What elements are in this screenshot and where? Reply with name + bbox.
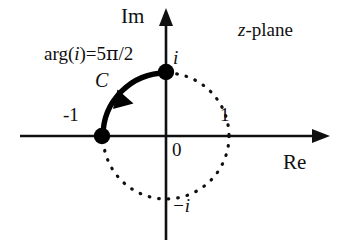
origin-label: 0 [172,140,182,159]
imaginary-axis-arrowhead [159,8,173,26]
z-plane-suffix: -plane [245,19,292,40]
real-axis-arrowhead [312,129,330,143]
point-marker-i [158,64,174,80]
arg-prefix: arg( [44,43,74,64]
point-marker-negative-one [94,128,110,144]
real-axis-label: Re [283,152,306,173]
z-plane-label: z-plane [238,20,293,39]
arg-over-two: /2 [119,43,134,64]
arg-suffix: )=5 [80,43,107,64]
arg-pi-symbol: π [106,42,119,64]
point-label-i: i [173,48,178,67]
imaginary-axis-label: Im [121,6,144,27]
arg-annotation: arg(i)=5π/2 [44,44,133,63]
point-label-negative-i: −i [172,196,190,215]
contour-arc-c [103,73,166,136]
point-label-one: 1 [220,105,230,124]
point-label-negative-one: -1 [63,105,79,124]
contour-label-c: C [95,70,108,90]
